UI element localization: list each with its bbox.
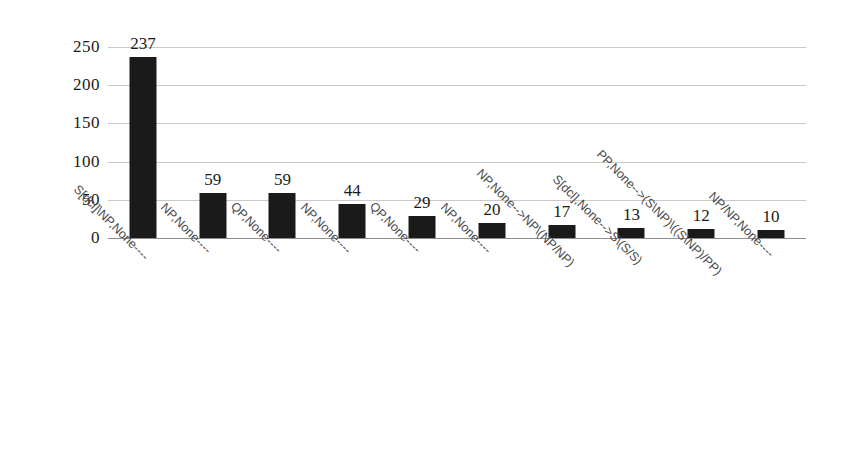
bar-value-label: 59 xyxy=(274,171,291,188)
y-axis-tick-label: 150 xyxy=(54,114,100,131)
axis-baseline xyxy=(108,238,806,239)
bar xyxy=(269,193,296,238)
bar xyxy=(339,204,366,238)
bar-value-label: 20 xyxy=(483,201,500,218)
bar-value-label: 12 xyxy=(693,207,710,224)
bar-value-label: 13 xyxy=(623,206,640,223)
y-axis-tick-label: 250 xyxy=(54,38,100,55)
x-axis-category-labels: S[dcl]\NP,None----NP,None----QP,None----… xyxy=(108,240,806,440)
y-axis-tick-label: 200 xyxy=(54,76,100,93)
bar-value-label: 29 xyxy=(414,194,431,211)
y-axis-tick-label: 0 xyxy=(54,229,100,246)
bar-value-label: 17 xyxy=(553,203,570,220)
bar xyxy=(129,57,156,238)
bar-value-label: 10 xyxy=(763,208,780,225)
bar-value-label: 59 xyxy=(204,171,221,188)
bar-value-label: 44 xyxy=(344,182,361,199)
y-axis-tick-label: 100 xyxy=(54,153,100,170)
bar-group: 10 xyxy=(736,47,806,238)
bar-chart: 050100150200250 237595944292017131210 S[… xyxy=(0,0,852,455)
bar xyxy=(199,193,226,238)
bar-value-label: 237 xyxy=(130,35,156,52)
